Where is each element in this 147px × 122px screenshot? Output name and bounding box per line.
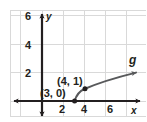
point-label-3-0: (3, 0) [40,88,66,99]
y-tick-label-6: 6 [25,11,31,22]
curve-label-g: g [129,54,136,66]
graph-figure: 6 4 2 2 4 6 y x g (4, 1) (3, 0) [0,0,147,122]
point-label-4-1: (4, 1) [57,76,83,87]
point-marker-4-1 [83,86,88,91]
y-tick-label-4: 4 [25,40,31,51]
x-axis-label: x [131,106,137,116]
y-axis-label: y [46,12,52,22]
x-tick-label-2: 2 [59,104,65,115]
y-tick-label-2: 2 [25,68,31,79]
point-marker-3-0 [72,99,77,104]
x-tick-label-4: 4 [81,104,87,115]
x-tick-label-6: 6 [107,104,113,115]
coordinate-plane-svg [0,0,147,122]
